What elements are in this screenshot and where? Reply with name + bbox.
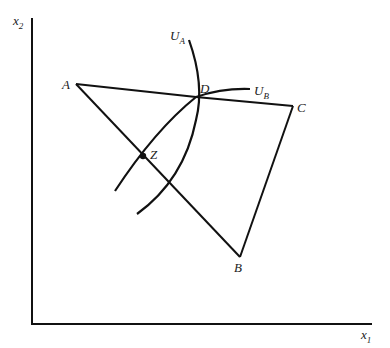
y-axis-label: x2 (12, 13, 24, 31)
label-ua: UA (170, 28, 185, 46)
curve-ua (137, 40, 199, 214)
x-axis-label: x1 (360, 327, 371, 345)
label-ub: UB (254, 83, 269, 101)
label-z: Z (150, 147, 158, 162)
label-b: B (234, 260, 242, 275)
curve-ub (115, 89, 250, 191)
label-d: D (199, 81, 210, 96)
segment-a-b (76, 84, 240, 257)
label-a: A (61, 77, 70, 92)
segment-c-b (240, 106, 293, 257)
label-c: C (297, 100, 306, 115)
diagram: x2 x1 A D C B Z UA UB (0, 0, 390, 348)
point-z (140, 153, 146, 159)
